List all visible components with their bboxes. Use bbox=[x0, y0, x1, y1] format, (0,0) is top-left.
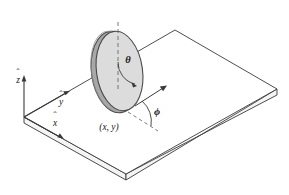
figure-container: ˆ z ˆ y ˆ x θ bbox=[0, 0, 289, 195]
phi-label: ϕ bbox=[154, 106, 160, 117]
disk-on-plane-diagram: ˆ z ˆ y ˆ x θ bbox=[0, 0, 289, 195]
z-axis-arrowhead bbox=[22, 75, 27, 82]
position-label: (x, y) bbox=[99, 122, 119, 133]
y-axis-label: y bbox=[58, 97, 64, 107]
theta-label: θ bbox=[125, 54, 131, 65]
z-axis-label: z bbox=[15, 75, 20, 85]
x-axis-label: x bbox=[52, 118, 58, 128]
